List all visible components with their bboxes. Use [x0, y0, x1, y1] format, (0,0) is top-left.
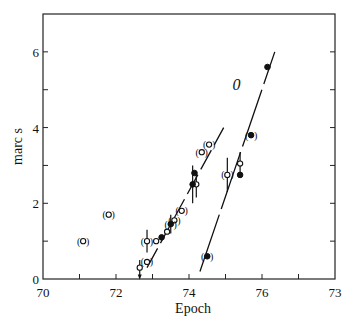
x-axis-label: Epoch — [175, 301, 211, 316]
data-point-open: () — [103, 209, 115, 221]
filled-marker — [159, 235, 165, 241]
x-tick-label: 73 — [329, 285, 342, 300]
y-axis-label: marc s — [10, 128, 25, 165]
bracket-right: ) — [254, 130, 257, 142]
filled-marker — [168, 221, 174, 227]
bracket-right: ) — [112, 209, 115, 221]
filled-marker — [237, 172, 243, 178]
open-marker — [238, 161, 243, 166]
data-point-open — [165, 229, 170, 234]
data-point-filled — [159, 235, 165, 241]
bracket-right: ) — [230, 169, 233, 181]
x-tick-label: 70 — [37, 285, 50, 300]
data-point-open: () — [77, 236, 89, 248]
data-point-filled — [192, 170, 198, 176]
filled-marker — [192, 170, 198, 176]
data-point-open: () — [221, 158, 233, 192]
y-tick-label: 4 — [33, 121, 40, 136]
filled-marker — [190, 182, 196, 188]
x-tick-label: 72 — [110, 285, 123, 300]
filled-marker — [248, 132, 254, 138]
data-point-filled: () — [245, 130, 257, 142]
data-point-filled: () — [201, 251, 213, 263]
bracket-right: ) — [86, 236, 89, 248]
open-marker — [165, 229, 170, 234]
x-tick-label: 74 — [183, 285, 197, 300]
x-tick-label: 76 — [256, 285, 270, 300]
open-marker — [199, 150, 204, 155]
data-point-open: () — [141, 230, 153, 253]
data-point-filled — [237, 172, 243, 178]
data-point-open — [238, 152, 243, 175]
bracket-right: ) — [174, 219, 177, 231]
chart-root: ()()()()()()()()()()()() 70727476730246E… — [0, 0, 354, 330]
y-tick-label: 0 — [33, 272, 40, 287]
y-tick-label: 6 — [33, 45, 40, 60]
open-marker — [81, 239, 86, 244]
open-marker — [144, 239, 149, 244]
open-marker — [179, 208, 184, 213]
filled-marker — [204, 253, 210, 259]
open-marker — [225, 172, 230, 177]
bracket-right: ) — [150, 236, 153, 248]
data-point-open: () — [176, 205, 188, 217]
open-marker — [206, 142, 211, 147]
bracket-right: ) — [177, 215, 180, 227]
data-point-open: () — [203, 139, 215, 151]
annotation-label: 0 — [232, 76, 240, 93]
filled-marker — [265, 64, 271, 70]
data-point-filled — [265, 64, 271, 70]
open-marker — [106, 212, 111, 217]
bracket-right: ) — [185, 205, 188, 217]
data-point-open — [154, 239, 159, 244]
open-marker — [144, 259, 149, 264]
bracket-right: ) — [210, 251, 213, 263]
y-tick-label: 2 — [33, 196, 40, 211]
bracket-right: ) — [150, 256, 153, 268]
open-marker — [154, 239, 159, 244]
bracket-right: ) — [212, 139, 215, 151]
